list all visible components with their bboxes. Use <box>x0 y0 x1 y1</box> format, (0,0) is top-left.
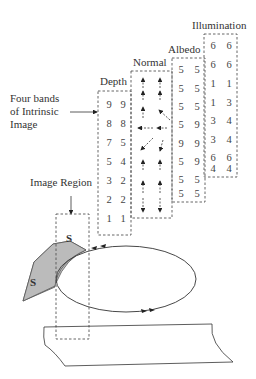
four-bands-label-3: Image <box>10 118 37 130</box>
image-region-box <box>56 214 89 339</box>
ellipse-object <box>56 246 196 312</box>
four-bands-label-2: of Intrinsic <box>10 105 59 117</box>
depth-label: Depth <box>100 75 127 87</box>
normal-arrows <box>138 78 170 212</box>
normal-band-box <box>131 71 172 218</box>
s-label-left: S <box>30 276 36 288</box>
illumination-label: Illumination <box>192 19 246 31</box>
ground-surface <box>44 324 233 366</box>
ellipse-arrows <box>91 244 155 313</box>
image-region-label: Image Region <box>30 176 92 188</box>
four-bands-label-1: Four bands <box>10 92 59 104</box>
diagram-graphics <box>0 0 256 379</box>
albedo-label: Albedo <box>168 43 200 55</box>
s-label-top: S <box>66 232 72 244</box>
intrinsic-image-diagram: Illumination Albedo Normal Depth Four ba… <box>0 0 256 379</box>
normal-label: Normal <box>133 56 167 68</box>
